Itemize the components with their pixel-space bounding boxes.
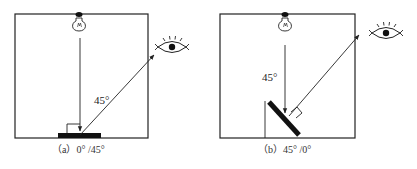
panel-caption: （b）45° /0° — [258, 144, 311, 155]
diagram-canvas: 45° （a）0° /45° 45° — [0, 0, 417, 169]
right-angle-mark — [67, 124, 80, 133]
enclosure-box — [15, 14, 148, 138]
angle-label: 45° — [94, 94, 109, 106]
panel-b: 45° （b）45° /0° — [220, 12, 403, 155]
eye-icon — [155, 36, 189, 53]
light-bulb-icon — [73, 12, 86, 31]
right-angle-mark — [291, 107, 302, 118]
tilted-sample — [269, 102, 299, 135]
reflected-ray — [289, 35, 359, 116]
angle-label: 45° — [262, 71, 277, 83]
reflected-ray — [80, 55, 154, 135]
panel-a: 45° （a）0° /45° — [15, 12, 189, 155]
light-bulb-icon — [279, 12, 292, 31]
eye-icon — [369, 22, 403, 39]
flat-sample — [58, 133, 101, 138]
panel-caption: （a）0° /45° — [52, 144, 105, 155]
